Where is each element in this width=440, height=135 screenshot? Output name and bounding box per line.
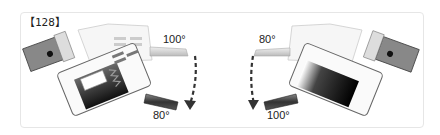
right-end-angle: 100° — [267, 109, 290, 121]
right-start-angle: 80° — [259, 33, 276, 45]
motor-illustration — [0, 0, 440, 135]
left-end-angle: 80° — [153, 109, 170, 121]
left-start-angle: 100° — [163, 33, 186, 45]
